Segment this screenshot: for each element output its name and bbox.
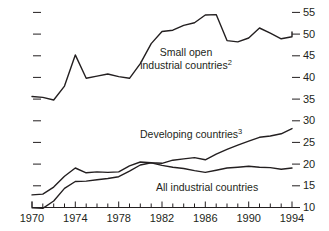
annotation-developing-text: Developing countries bbox=[140, 128, 238, 140]
annotation-all-industrial-countries: All industrial countries bbox=[156, 181, 258, 194]
chart-plot-area bbox=[0, 0, 329, 231]
x-tick-label-1994: 1994 bbox=[270, 213, 314, 224]
x-tick-label-1978: 1978 bbox=[97, 213, 141, 224]
x-axis-ticks bbox=[32, 202, 292, 208]
annotation-developing-countries: Developing countries3 bbox=[140, 128, 242, 141]
y-tick-label-55: 55 bbox=[303, 7, 315, 18]
annotation-small-open-line2: industrial countries bbox=[140, 59, 228, 71]
y-tick-label-15: 15 bbox=[303, 180, 315, 191]
y-tick-label-30: 30 bbox=[303, 115, 315, 126]
y-tick-label-20: 20 bbox=[303, 159, 315, 170]
right-axis-ticks bbox=[292, 12, 300, 207]
y-tick-label-10: 10 bbox=[303, 202, 315, 213]
y-tick-label-35: 35 bbox=[303, 94, 315, 105]
annotation-small-open-industrial-countries: Small open industrial countries2 bbox=[131, 46, 241, 71]
y-tick-label-25: 25 bbox=[303, 137, 315, 148]
annotation-small-open-line1: Small open bbox=[160, 46, 213, 58]
x-tick-label-1986: 1986 bbox=[183, 213, 227, 224]
annotation-developing-footnote: 3 bbox=[238, 127, 242, 136]
y-tick-label-40: 40 bbox=[303, 72, 315, 83]
x-tick-label-1970: 1970 bbox=[10, 213, 54, 224]
left-axis-ticks bbox=[32, 12, 41, 207]
x-tick-label-1974: 1974 bbox=[53, 213, 97, 224]
y-tick-label-50: 50 bbox=[303, 29, 315, 40]
y-tick-label-45: 45 bbox=[303, 50, 315, 61]
x-tick-label-1990: 1990 bbox=[227, 213, 271, 224]
x-tick-label-1982: 1982 bbox=[140, 213, 184, 224]
annotation-small-open-footnote: 2 bbox=[228, 57, 232, 66]
chart-container: 55 50 45 40 35 30 25 20 15 10 1970 1974 … bbox=[0, 0, 329, 231]
